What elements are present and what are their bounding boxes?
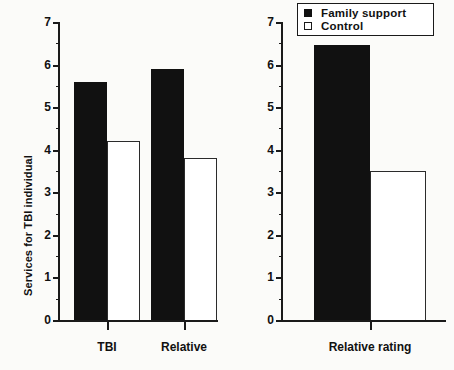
open-square-icon	[304, 22, 312, 30]
bar-relative-rating-family-support	[314, 45, 370, 320]
y-label-1: 1	[44, 271, 51, 283]
bar-relative-control	[184, 158, 217, 320]
y-label-4: 4	[44, 144, 51, 156]
legend-label-control: Control	[321, 20, 363, 32]
legend: Family support Control	[297, 3, 434, 36]
y-label-6: 6	[267, 59, 274, 71]
x-label-relative-rating: Relative rating	[329, 340, 412, 354]
y-tick-minor-6-5	[279, 43, 283, 44]
y-tick-0	[53, 320, 60, 322]
bar-tbi-family-support	[74, 82, 107, 320]
y-label-1: 1	[267, 271, 274, 283]
y-tick-minor-5-5	[279, 86, 283, 87]
filled-square-icon	[304, 9, 312, 17]
y-tick-minor-0-5	[279, 299, 283, 300]
y-label-7: 7	[44, 16, 51, 28]
figure-canvas: Services for TBI individual 7 6 5 4 3	[0, 0, 454, 370]
y-label-2: 2	[267, 229, 274, 241]
x-label-relative: Relative	[161, 340, 207, 354]
y-tick-6	[53, 65, 60, 67]
y-tick-minor-1-5	[56, 256, 60, 257]
y-tick-1	[53, 277, 60, 279]
y-tick-minor-5-5	[56, 86, 60, 87]
y-label-0: 0	[267, 314, 274, 326]
y-tick-4	[276, 150, 283, 152]
legend-item-control: Control	[304, 19, 429, 32]
y-tick-minor-4-5	[279, 128, 283, 129]
x-tick-tbi	[107, 320, 109, 330]
x-label-tbi: TBI	[97, 340, 116, 354]
y-tick-4	[53, 150, 60, 152]
legend-item-family-support: Family support	[304, 6, 429, 19]
plot-area-right: 7 6 5 4 3 2 1 0 Relative rating	[281, 22, 446, 322]
y-tick-6	[276, 65, 283, 67]
bar-tbi-control	[107, 141, 140, 320]
y-tick-7	[53, 22, 60, 24]
y-tick-minor-1-5	[279, 256, 283, 257]
y-tick-2	[276, 235, 283, 237]
y-tick-minor-3-5	[56, 171, 60, 172]
y-label-3: 3	[267, 186, 274, 198]
y-label-0: 0	[44, 314, 51, 326]
legend-label-family-support: Family support	[321, 7, 406, 19]
y-label-2: 2	[44, 229, 51, 241]
plot-area-left: 7 6 5 4 3 2 1 0 TBI Relative	[58, 22, 218, 322]
y-label-7: 7	[267, 16, 274, 28]
y-tick-minor-6-5	[56, 43, 60, 44]
y-tick-5	[276, 107, 283, 109]
y-tick-minor-4-5	[56, 128, 60, 129]
x-tick-relative	[184, 320, 186, 330]
y-label-5: 5	[44, 101, 51, 113]
y-tick-0	[276, 320, 283, 322]
y-tick-1	[276, 277, 283, 279]
y-label-5: 5	[267, 101, 274, 113]
y-tick-2	[53, 235, 60, 237]
y-tick-minor-2-5	[279, 214, 283, 215]
y-tick-minor-2-5	[56, 214, 60, 215]
y-tick-minor-3-5	[279, 171, 283, 172]
y-tick-5	[53, 107, 60, 109]
y-tick-3	[276, 192, 283, 194]
y-label-6: 6	[44, 59, 51, 71]
chart-panel-right: 7 6 5 4 3 2 1 0 Relative rating Services…	[227, 0, 454, 370]
y-label-4: 4	[267, 144, 274, 156]
x-tick-relative-rating	[370, 320, 372, 330]
y-label-3: 3	[44, 186, 51, 198]
y-axis-title-left: Services for TBI individual	[22, 155, 34, 296]
chart-panel-left: Services for TBI individual 7 6 5 4 3	[0, 0, 227, 370]
y-tick-7	[276, 22, 283, 24]
y-tick-3	[53, 192, 60, 194]
bar-relative-rating-control	[370, 171, 426, 320]
y-tick-minor-0-5	[56, 299, 60, 300]
bar-relative-family-support	[151, 69, 184, 320]
